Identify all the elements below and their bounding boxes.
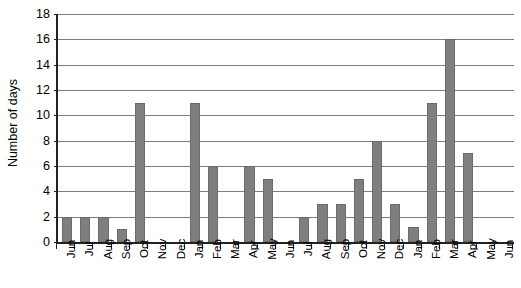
x-label-slot: Nov xyxy=(147,248,165,288)
bar-chart: Number of days 024681012141618 JunJulAug… xyxy=(0,0,521,288)
bar-slot xyxy=(441,14,459,242)
bar-slot xyxy=(477,14,495,242)
bar-slot xyxy=(259,14,277,242)
y-tick-label: 10 xyxy=(36,108,50,122)
bars-container xyxy=(58,14,514,242)
bar-slot xyxy=(204,14,222,242)
y-tick-label: 18 xyxy=(36,7,50,21)
bar[interactable] xyxy=(372,141,382,242)
x-label-slot: Oct xyxy=(348,248,366,288)
bar-slot xyxy=(149,14,167,242)
x-label-slot: Mar xyxy=(220,248,238,288)
y-tick-label: 0 xyxy=(43,235,50,249)
bar-slot xyxy=(332,14,350,242)
y-tick-label: 6 xyxy=(43,159,50,173)
y-tick-mark xyxy=(54,242,58,243)
bar-slot xyxy=(496,14,514,242)
bar[interactable] xyxy=(190,103,200,242)
x-label-slot: May xyxy=(475,248,493,288)
bar-slot xyxy=(222,14,240,242)
bar[interactable] xyxy=(299,217,309,242)
bar[interactable] xyxy=(244,166,254,242)
bar-slot xyxy=(58,14,76,242)
bar-slot xyxy=(386,14,404,242)
x-tick-label: Jun xyxy=(503,240,515,259)
y-tick-label: 8 xyxy=(43,134,50,148)
y-tick-label: 12 xyxy=(36,83,50,97)
x-label-slot: Apr xyxy=(457,248,475,288)
y-axis-title-label: Number of days xyxy=(6,79,20,167)
bar-slot xyxy=(423,14,441,242)
bar[interactable] xyxy=(208,166,218,242)
plot-area xyxy=(56,14,514,244)
bar-slot xyxy=(167,14,185,242)
bar[interactable] xyxy=(263,179,273,242)
bar-slot xyxy=(131,14,149,242)
bar-slot xyxy=(295,14,313,242)
bar[interactable] xyxy=(317,204,327,242)
x-label-slot: Feb xyxy=(202,248,220,288)
x-axis: JunJulAugSepOctNovDecJanFebMarAprMayJunJ… xyxy=(56,244,512,288)
bar[interactable] xyxy=(62,217,72,242)
x-label-slot: Sep xyxy=(111,248,129,288)
x-label-slot: Nov xyxy=(366,248,384,288)
x-label-slot: Jul xyxy=(293,248,311,288)
y-axis-tick-labels: 024681012141618 xyxy=(26,0,54,246)
bar-slot xyxy=(404,14,422,242)
bar[interactable] xyxy=(336,204,346,242)
x-label-slot: Jan xyxy=(184,248,202,288)
x-label-slot: Dec xyxy=(165,248,183,288)
x-label-slot: Oct xyxy=(129,248,147,288)
x-label-slot: May xyxy=(257,248,275,288)
x-label-slot: Dec xyxy=(384,248,402,288)
bar-slot xyxy=(113,14,131,242)
x-axis-tick-labels: JunJulAugSepOctNovDecJanFebMarAprMayJunJ… xyxy=(56,248,512,288)
x-label-slot: Aug xyxy=(311,248,329,288)
x-label-slot: Aug xyxy=(92,248,110,288)
x-label-slot: Apr xyxy=(238,248,256,288)
bar-slot xyxy=(240,14,258,242)
x-label-slot: Feb xyxy=(421,248,439,288)
bar-slot xyxy=(350,14,368,242)
bar[interactable] xyxy=(390,204,400,242)
bar[interactable] xyxy=(427,103,437,242)
x-label-slot: Jun xyxy=(494,248,512,288)
bar-slot xyxy=(76,14,94,242)
bar[interactable] xyxy=(80,217,90,242)
x-label-slot: Jun xyxy=(56,248,74,288)
y-tick-label: 2 xyxy=(43,210,50,224)
y-tick-label: 16 xyxy=(36,32,50,46)
bar-slot xyxy=(368,14,386,242)
y-tick-label: 4 xyxy=(43,184,50,198)
bar-slot xyxy=(186,14,204,242)
x-label-slot: Jun xyxy=(275,248,293,288)
x-label-slot: Sep xyxy=(330,248,348,288)
y-tick-label: 14 xyxy=(36,58,50,72)
x-label-slot: Jul xyxy=(74,248,92,288)
x-label-slot: Mar xyxy=(439,248,457,288)
bar[interactable] xyxy=(463,153,473,242)
y-axis-title: Number of days xyxy=(0,0,26,246)
x-label-slot: Jan xyxy=(402,248,420,288)
bar[interactable] xyxy=(445,39,455,242)
bar-slot xyxy=(94,14,112,242)
bar[interactable] xyxy=(135,103,145,242)
bar-slot xyxy=(277,14,295,242)
bar-slot xyxy=(313,14,331,242)
bar-slot xyxy=(459,14,477,242)
bar[interactable] xyxy=(354,179,364,242)
